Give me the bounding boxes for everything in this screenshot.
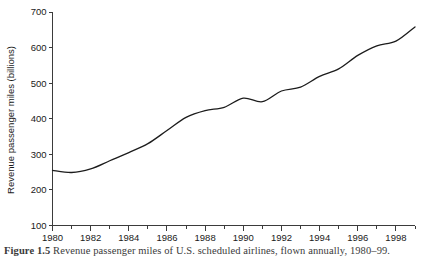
y-axis-tick-label: 200 xyxy=(31,184,47,195)
x-axis-tick-label: 1986 xyxy=(156,232,177,243)
x-axis-tick-label: 1998 xyxy=(385,232,406,243)
y-axis-tick-label: 700 xyxy=(31,6,47,17)
line-chart: Revenue passenger miles (billions) 70060… xyxy=(0,0,421,256)
x-axis-tick-label: 1990 xyxy=(233,232,254,243)
y-axis-tick-label: 300 xyxy=(31,149,47,160)
figure-container: Revenue passenger miles (billions) 70060… xyxy=(0,0,421,256)
y-axis-tick-label: 100 xyxy=(31,220,47,231)
x-axis-tick-label: 1988 xyxy=(195,232,216,243)
y-axis-tick-label: 600 xyxy=(31,42,47,53)
x-axis-tick-label: 1994 xyxy=(309,232,330,243)
figure-caption-label: Figure 1.5 xyxy=(4,246,50,256)
y-axis-tick-label: 400 xyxy=(31,113,47,124)
x-axis-tick-label: 1996 xyxy=(347,232,368,243)
figure-caption-body: Revenue passenger miles of U.S. schedule… xyxy=(53,246,390,256)
y-axis-label: Revenue passenger miles (billions) xyxy=(5,46,16,194)
figure-caption: Figure 1.5 Revenue passenger miles of U.… xyxy=(4,246,421,256)
x-axis-tick-label: 1984 xyxy=(118,232,139,243)
x-axis-tick-label: 1982 xyxy=(80,232,101,243)
x-axis-tick-label: 1980 xyxy=(42,232,63,243)
figure-caption-clip: Figure 1.5 Revenue passenger miles of U.… xyxy=(0,246,421,256)
x-axis-tick-label: 1992 xyxy=(271,232,292,243)
chart-background xyxy=(0,0,421,256)
y-axis-tick-label: 500 xyxy=(31,78,47,89)
